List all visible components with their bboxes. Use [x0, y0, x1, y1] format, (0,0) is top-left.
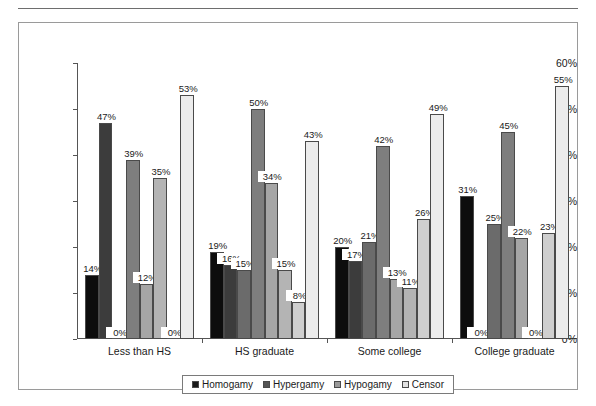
bar	[376, 146, 390, 339]
bar	[237, 270, 251, 339]
bar-value-label: 53%	[174, 83, 202, 94]
bar	[515, 238, 529, 339]
bar	[224, 265, 238, 339]
bar	[430, 114, 444, 339]
legend-swatch-icon	[334, 381, 341, 388]
legend-label: Homogamy	[202, 379, 253, 390]
legend-entry: Hypogamy	[334, 379, 392, 390]
bar	[390, 279, 404, 339]
bar-value-label: 39%	[120, 148, 148, 159]
chart-legend: HomogamyHypergamyHypogamyCensor	[182, 375, 454, 394]
y-axis-tick-mark	[73, 109, 77, 110]
y-axis-line	[77, 63, 78, 339]
y-axis-tick-mark	[73, 339, 77, 340]
bar-value-label: 55%	[549, 74, 577, 85]
x-axis-group-separator	[202, 338, 203, 343]
legend-label: Hypogamy	[344, 379, 392, 390]
figure-frame: 0%10%20%30%40%50%60% 14%47%0%39%12%35%0%…	[18, 22, 578, 390]
bar	[487, 224, 501, 339]
x-axis-group-separator	[327, 338, 328, 343]
bar	[278, 270, 292, 339]
bar-value-label: 45%	[495, 120, 523, 131]
y-axis-tick-mark	[73, 201, 77, 202]
bar	[335, 247, 349, 339]
bar-value-label: 31%	[454, 184, 482, 195]
bar	[180, 95, 194, 339]
bar	[85, 275, 99, 339]
legend-swatch-icon	[192, 381, 199, 388]
legend-entry: Homogamy	[192, 379, 253, 390]
legend-entry: Hypergamy	[263, 379, 324, 390]
y-axis-tick-label: 60%	[537, 57, 577, 69]
x-axis-category-label: College graduate	[452, 345, 577, 357]
bar-value-label: 47%	[92, 111, 120, 122]
bar	[99, 123, 113, 339]
bar-value-label: 49%	[424, 102, 452, 113]
bar	[210, 252, 224, 339]
x-axis-category-label: HS graduate	[202, 345, 327, 357]
bar	[251, 109, 265, 339]
bar-value-label: 35%	[147, 166, 175, 177]
bar-value-label: 15%	[272, 258, 300, 269]
legend-label: Censor	[412, 379, 444, 390]
top-divider-rule	[18, 8, 578, 9]
y-axis-tick-mark	[73, 293, 77, 294]
bar-value-label: 19%	[204, 240, 232, 251]
bar	[555, 86, 569, 339]
bar-value-label: 20%	[329, 235, 357, 246]
bar-value-label: 42%	[370, 134, 398, 145]
bar-value-label: 34%	[258, 171, 286, 182]
legend-label: Hypergamy	[273, 379, 324, 390]
y-axis-tick-mark	[73, 63, 77, 64]
bar	[292, 302, 306, 339]
x-axis-category-label: Less than HS	[77, 345, 202, 357]
y-axis-tick-mark	[73, 247, 77, 248]
legend-entry: Censor	[402, 379, 444, 390]
bar	[403, 288, 417, 339]
bar	[153, 178, 167, 339]
bar-value-label: 50%	[245, 97, 273, 108]
bar	[140, 284, 154, 339]
legend-swatch-icon	[263, 381, 270, 388]
x-axis-group-separator	[452, 338, 453, 343]
y-axis-tick-mark	[73, 155, 77, 156]
bar	[362, 242, 376, 339]
bar	[460, 196, 474, 339]
bar	[305, 141, 319, 339]
x-axis-category-label: Some college	[327, 345, 452, 357]
chart-page: 0%10%20%30%40%50%60% 14%47%0%39%12%35%0%…	[0, 0, 596, 406]
bar	[126, 160, 140, 339]
bar	[417, 219, 431, 339]
bar	[349, 261, 363, 339]
legend-swatch-icon	[402, 381, 409, 388]
bar	[542, 233, 556, 339]
bar-value-label: 43%	[299, 129, 327, 140]
bar-value-label: 22%	[508, 226, 536, 237]
